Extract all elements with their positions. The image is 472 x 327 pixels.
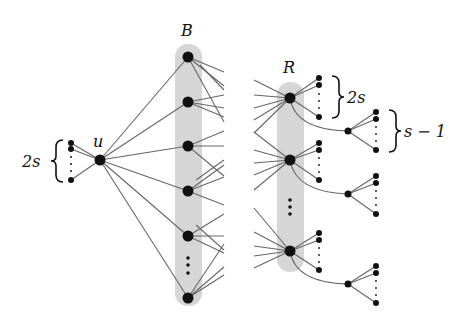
b-node xyxy=(183,231,194,242)
r-node xyxy=(285,246,296,257)
b-node xyxy=(183,293,194,304)
u-node xyxy=(95,155,106,166)
b-label: B xyxy=(180,21,193,40)
r-ellipsis-dot xyxy=(288,212,292,216)
r-ellipsis-dot xyxy=(288,198,292,202)
left-brace xyxy=(51,140,63,182)
b-node xyxy=(183,97,194,108)
b-ellipsis-dot xyxy=(186,263,190,267)
b-node xyxy=(183,52,194,63)
left-brace-label: 2s xyxy=(21,152,40,171)
b-node xyxy=(183,141,194,152)
u-leaf xyxy=(68,146,74,152)
r-label: R xyxy=(282,58,295,77)
edges xyxy=(71,57,376,303)
r-brace xyxy=(332,76,344,118)
r-brace-label: 2s xyxy=(346,88,365,107)
b-ellipsis-dot xyxy=(186,271,190,275)
u-label: u xyxy=(93,132,103,151)
r-ellipsis-dot xyxy=(288,205,292,209)
sub-brace-label: s − 1 xyxy=(404,122,446,141)
graph-diagram: B R u 2s 2s s − 1 xyxy=(0,0,472,327)
r-node xyxy=(285,155,296,166)
sub-brace xyxy=(389,110,401,152)
b-node xyxy=(183,186,194,197)
r-set-shade xyxy=(277,82,304,272)
b-ellipsis-dot xyxy=(186,256,190,260)
u-leaf xyxy=(68,177,74,183)
r-node xyxy=(285,93,296,104)
u-leaf xyxy=(68,140,74,146)
